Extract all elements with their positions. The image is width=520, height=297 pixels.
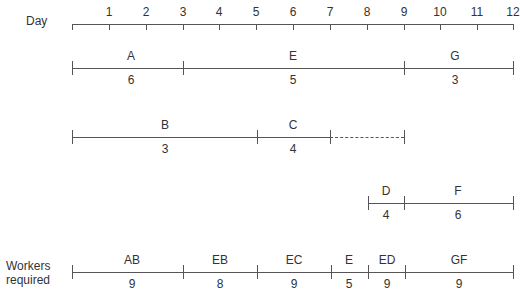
- axis-tick-0: [72, 24, 73, 30]
- row-tick: [72, 265, 73, 279]
- row-tick: [368, 265, 369, 279]
- axis-tick-label: 10: [433, 5, 446, 19]
- activity-c-workers: 4: [290, 142, 297, 156]
- axis-tick: [440, 24, 441, 30]
- row-tick: [513, 61, 514, 75]
- axis-tick: [293, 24, 294, 30]
- axis-tick: [330, 24, 331, 30]
- axis-tick: [109, 24, 110, 30]
- segment-ab-value: 9: [129, 277, 136, 291]
- row-tick: [404, 61, 405, 75]
- row-tick: [183, 61, 184, 75]
- float-c-dashed: [330, 137, 404, 138]
- axis-tick-label: 8: [364, 5, 371, 19]
- segment-eb-label: EB: [212, 253, 228, 267]
- axis-tick-label: 2: [143, 5, 150, 19]
- segment-e-value: 5: [346, 277, 353, 291]
- row-tick: [368, 196, 369, 210]
- segment-gf-label: GF: [451, 253, 468, 267]
- activity-g-bar: [404, 68, 513, 69]
- axis-tick-label: 6: [290, 5, 297, 19]
- activity-e-workers: 5: [290, 73, 297, 87]
- activity-f-label: F: [454, 184, 461, 198]
- axis-tick-label: 12: [506, 5, 519, 19]
- segment-ed-value: 9: [384, 277, 391, 291]
- workers-bar: [72, 272, 513, 273]
- workers-label-line2: required: [6, 273, 50, 287]
- activity-g-workers: 3: [452, 73, 459, 87]
- axis-tick: [404, 24, 405, 30]
- axis-tick: [183, 24, 184, 30]
- activity-a-bar: [72, 68, 183, 69]
- activity-a-workers: 6: [128, 73, 135, 87]
- row-tick: [404, 196, 405, 210]
- axis-label: Day: [26, 14, 47, 28]
- axis-tick-label: 7: [327, 5, 334, 19]
- row-tick: [513, 265, 514, 279]
- activity-b-label: B: [161, 118, 169, 132]
- row-tick: [72, 130, 73, 144]
- axis-tick-label: 9: [401, 5, 408, 19]
- axis-tick: [146, 24, 147, 30]
- workers-label: Workers required: [6, 259, 50, 287]
- segment-ed-label: ED: [379, 253, 396, 267]
- activity-b-workers: 3: [162, 142, 169, 156]
- segment-eb-value: 8: [217, 277, 224, 291]
- row-tick: [257, 265, 258, 279]
- row-tick: [513, 196, 514, 210]
- row-tick: [404, 130, 405, 144]
- activity-e-label: E: [289, 49, 297, 63]
- axis-tick-label: 3: [180, 5, 187, 19]
- segment-e-label: E: [345, 253, 353, 267]
- activity-c-bar: [257, 137, 330, 138]
- segment-ab-label: AB: [124, 253, 140, 267]
- axis-tick: [256, 24, 257, 30]
- activity-d-bar: [368, 203, 404, 204]
- axis-tick: [219, 24, 220, 30]
- activity-d-label: D: [382, 184, 391, 198]
- row-tick: [331, 265, 332, 279]
- workers-label-line1: Workers: [6, 259, 50, 273]
- axis-tick: [477, 24, 478, 30]
- activity-a-label: A: [127, 49, 135, 63]
- segment-ec-label: EC: [286, 253, 303, 267]
- row-tick: [72, 61, 73, 75]
- activity-c-label: C: [289, 118, 298, 132]
- row-tick: [405, 265, 406, 279]
- activity-e-bar: [183, 68, 404, 69]
- axis-tick-label: 5: [253, 5, 260, 19]
- axis-tick-label: 11: [471, 5, 483, 19]
- activity-f-bar: [404, 203, 513, 204]
- axis-tick-label: 4: [216, 5, 223, 19]
- axis-tick-label: 1: [106, 5, 113, 19]
- axis-tick: [367, 24, 368, 30]
- activity-d-workers: 4: [383, 208, 390, 222]
- segment-ec-value: 9: [291, 277, 298, 291]
- segment-gf-value: 9: [456, 277, 463, 291]
- activity-g-label: G: [450, 49, 459, 63]
- activity-b-bar: [72, 137, 257, 138]
- row-tick: [330, 130, 331, 144]
- row-tick: [257, 130, 258, 144]
- activity-f-workers: 6: [455, 208, 462, 222]
- row-tick: [183, 265, 184, 279]
- axis-tick: [513, 24, 514, 30]
